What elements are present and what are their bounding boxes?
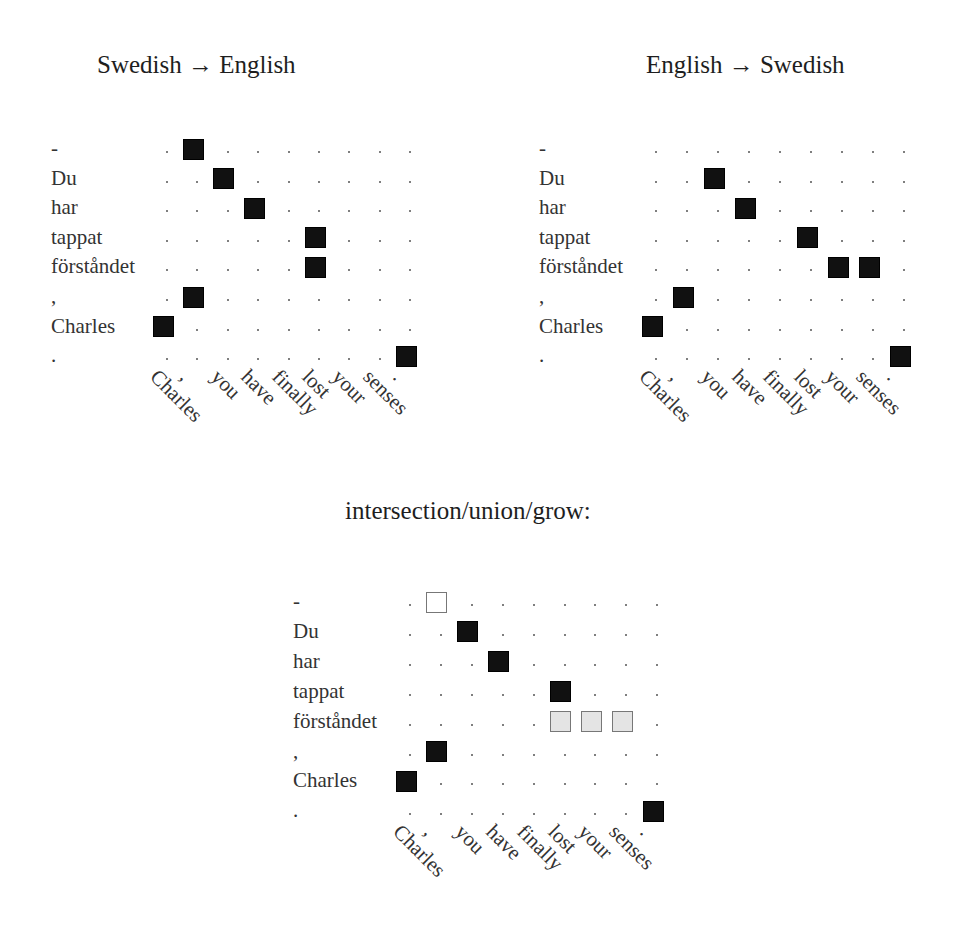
grid-dot bbox=[717, 358, 719, 360]
grid-dot bbox=[409, 724, 411, 726]
alignment-point-black bbox=[488, 651, 509, 672]
grid-dot bbox=[625, 754, 627, 756]
grid-dot bbox=[533, 813, 535, 815]
grid-dot bbox=[841, 240, 843, 242]
grid-dot bbox=[288, 299, 290, 301]
column-label: you bbox=[697, 366, 734, 403]
grid-dot bbox=[779, 181, 781, 183]
row-label: - bbox=[539, 138, 546, 159]
grid-dot bbox=[810, 329, 812, 331]
row-label: förståndet bbox=[293, 711, 377, 732]
grid-dot bbox=[440, 813, 442, 815]
grid-dot bbox=[655, 181, 657, 183]
column-label: you bbox=[207, 366, 244, 403]
grid-dot bbox=[533, 783, 535, 785]
grid-dot bbox=[625, 634, 627, 636]
grid-dot bbox=[686, 151, 688, 153]
grid-dot bbox=[594, 664, 596, 666]
column-label: Charles bbox=[146, 366, 206, 426]
grid-dot bbox=[903, 210, 905, 212]
grid-dot bbox=[625, 783, 627, 785]
alignment-point-black bbox=[457, 621, 478, 642]
row-label: Charles bbox=[51, 316, 115, 337]
alignment-point-union bbox=[426, 592, 447, 613]
alignment-point-black bbox=[642, 316, 663, 337]
grid-dot bbox=[288, 151, 290, 153]
grid-dot bbox=[655, 151, 657, 153]
grid-dot bbox=[533, 664, 535, 666]
grid-dot bbox=[409, 299, 411, 301]
grid-dot bbox=[841, 299, 843, 301]
grid-dot bbox=[533, 604, 535, 606]
grid-dot bbox=[717, 299, 719, 301]
grid-dot bbox=[656, 634, 658, 636]
grid-dot bbox=[841, 181, 843, 183]
grid-dot bbox=[625, 664, 627, 666]
grid-dot bbox=[257, 151, 259, 153]
grid-dot bbox=[872, 240, 874, 242]
grid-dot bbox=[502, 634, 504, 636]
grid-dot bbox=[318, 210, 320, 212]
grid-dot bbox=[318, 181, 320, 183]
grid-dot bbox=[594, 634, 596, 636]
row-label: - bbox=[51, 138, 58, 159]
grid-dot bbox=[564, 783, 566, 785]
grid-dot bbox=[166, 358, 168, 360]
grid-dot bbox=[655, 240, 657, 242]
grid-dot bbox=[779, 151, 781, 153]
grid-dot bbox=[379, 358, 381, 360]
row-label: tappat bbox=[51, 227, 102, 248]
column-label: . bbox=[389, 366, 408, 385]
grid-dot bbox=[196, 240, 198, 242]
grid-dot bbox=[409, 329, 411, 331]
grid-dot bbox=[903, 240, 905, 242]
grid-dot bbox=[656, 783, 658, 785]
grid-dot bbox=[748, 299, 750, 301]
grid-dot bbox=[533, 634, 535, 636]
grid-dot bbox=[564, 664, 566, 666]
grid-dot bbox=[717, 151, 719, 153]
grid-dot bbox=[533, 754, 535, 756]
grid-dot bbox=[440, 724, 442, 726]
grid-dot bbox=[717, 240, 719, 242]
grid-dot bbox=[409, 210, 411, 212]
grid-dot bbox=[656, 604, 658, 606]
grid-dot bbox=[686, 181, 688, 183]
panel-title-english-swedish: English → Swedish bbox=[646, 52, 845, 77]
grid-dot bbox=[841, 151, 843, 153]
grid-dot bbox=[594, 754, 596, 756]
grid-dot bbox=[748, 181, 750, 183]
grid-dot bbox=[288, 181, 290, 183]
alignment-point-black bbox=[396, 346, 417, 367]
grid-dot bbox=[655, 210, 657, 212]
alignment-point-grow bbox=[550, 711, 571, 732]
grid-dot bbox=[872, 358, 874, 360]
grid-dot bbox=[502, 783, 504, 785]
grid-dot bbox=[348, 329, 350, 331]
grid-dot bbox=[409, 269, 411, 271]
grid-dot bbox=[379, 269, 381, 271]
grid-dot bbox=[810, 299, 812, 301]
grid-dot bbox=[686, 240, 688, 242]
grid-dot bbox=[409, 151, 411, 153]
grid-dot bbox=[318, 151, 320, 153]
grid-dot bbox=[903, 151, 905, 153]
grid-dot bbox=[872, 210, 874, 212]
grid-dot bbox=[348, 151, 350, 153]
grid-dot bbox=[471, 694, 473, 696]
row-label: . bbox=[293, 801, 298, 822]
row-label: Du bbox=[51, 168, 77, 189]
alignment-point-black bbox=[643, 801, 664, 822]
grid-dot bbox=[257, 181, 259, 183]
grid-dot bbox=[471, 813, 473, 815]
grid-dot bbox=[288, 210, 290, 212]
grid-dot bbox=[227, 151, 229, 153]
grid-dot bbox=[903, 299, 905, 301]
grid-dot bbox=[779, 358, 781, 360]
column-label: you bbox=[451, 821, 488, 858]
grid-dot bbox=[348, 210, 350, 212]
grid-dot bbox=[379, 329, 381, 331]
grid-dot bbox=[379, 299, 381, 301]
grid-dot bbox=[656, 724, 658, 726]
row-label: , bbox=[293, 741, 298, 762]
